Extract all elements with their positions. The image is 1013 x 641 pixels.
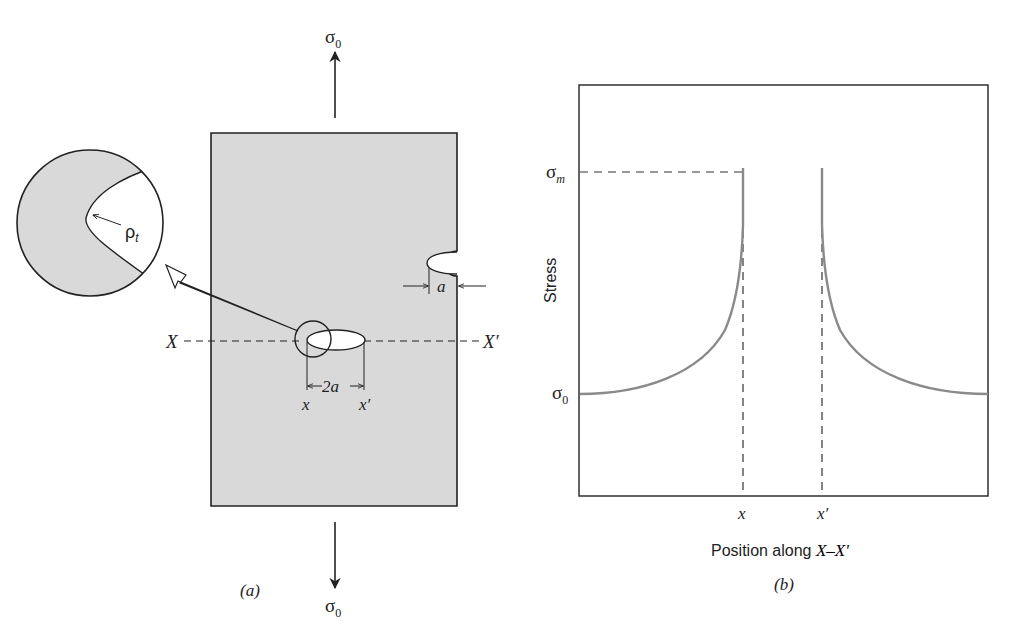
stress-curve-right — [822, 168, 988, 394]
plot-frame — [579, 85, 988, 496]
x-tick-right: x′ — [816, 504, 829, 523]
crack-length-label: 2a — [322, 377, 339, 396]
stress-curve-left — [580, 168, 743, 394]
panel-a-caption: (a) — [240, 581, 260, 600]
bottom-stress-arrow: σ0 — [325, 522, 341, 620]
panel-b-caption: (b) — [774, 575, 794, 594]
x-tick-left: x — [737, 504, 746, 523]
crack-right-end-label: x′ — [358, 395, 371, 414]
section-left-label: X — [165, 331, 179, 352]
panel-b: Stress σm σ0 x x′ Position along X–X′ (b… — [542, 85, 988, 594]
sigma-m-label: σm — [546, 161, 565, 186]
sigma-0-label: σ0 — [552, 382, 568, 407]
bottom-stress-label: σ0 — [325, 595, 341, 620]
crack-left-end-label: x — [301, 395, 310, 414]
top-stress-arrow: σ0 — [325, 26, 341, 118]
surface-crack-label: a — [437, 277, 446, 296]
y-axis-label: Stress — [542, 258, 559, 303]
crack-tip-inset: ρt — [17, 150, 180, 300]
plate — [211, 133, 457, 506]
top-stress-label: σ0 — [325, 26, 341, 51]
internal-crack — [307, 330, 365, 350]
section-right-label: X′ — [482, 331, 500, 352]
x-axis-label: Position along X–X′ — [711, 541, 849, 560]
figure-canvas: σ0 a X X′ 2a — [0, 0, 1013, 641]
panel-a: σ0 a X X′ 2a — [17, 26, 500, 620]
